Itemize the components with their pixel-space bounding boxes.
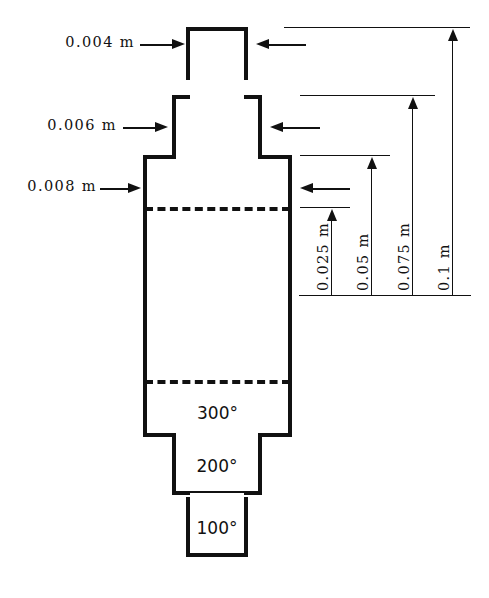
counter-arrow-main-icon — [300, 183, 313, 193]
extension-line-01 — [284, 27, 470, 28]
temperature-label-100: 100° — [186, 518, 248, 538]
dimension-arrow-01-icon — [448, 29, 458, 41]
dimension-label-0075: 0.075 m — [396, 222, 412, 291]
block-middle-step — [172, 95, 262, 155]
thickness-label-main: 0.008 m — [2, 178, 97, 194]
dimension-arrow-0075-icon — [408, 97, 418, 109]
joint-fill-lower-b — [190, 493, 244, 501]
dimension-arrow-0025-icon — [327, 209, 337, 221]
counter-arrow-middle-icon — [270, 122, 283, 132]
joint-fill-lower-a — [176, 433, 258, 441]
temperature-label-300: 300° — [143, 403, 292, 423]
dimension-label-0025: 0.025 m — [315, 222, 331, 291]
block-top-step — [186, 27, 248, 80]
leader-arrow-top-icon — [172, 39, 185, 49]
joint-fill-top — [190, 76, 244, 99]
counter-leader-line-main — [312, 188, 350, 190]
internal-dashed-divider-upper — [145, 207, 290, 211]
extension-line-0025 — [300, 207, 350, 208]
leader-arrow-middle-icon — [155, 122, 168, 132]
leader-arrow-main-icon — [128, 183, 141, 193]
dimension-line-005 — [371, 160, 372, 295]
dimension-line-01 — [452, 32, 453, 295]
counter-arrow-top-icon — [256, 39, 269, 49]
dimension-baseline — [299, 295, 471, 296]
dimension-label-01: 0.1 m — [436, 243, 452, 291]
dimension-line-0075 — [412, 100, 413, 295]
thickness-label-top: 0.004 m — [40, 34, 135, 50]
extension-line-005 — [300, 155, 390, 156]
block-main-body — [143, 155, 292, 437]
extension-line-0075 — [300, 95, 435, 96]
counter-leader-line-top — [268, 44, 306, 46]
joint-fill-middle — [176, 151, 258, 159]
dimension-label-005: 0.05 m — [355, 233, 371, 291]
internal-dashed-divider-lower — [145, 380, 290, 384]
diagram-canvas: 300° 200° 100° 0.004 m 0.006 m 0.008 m 0… — [0, 0, 489, 598]
dimension-arrow-005-icon — [367, 157, 377, 169]
dimension-line-0025 — [331, 212, 332, 295]
counter-leader-line-middle — [282, 127, 320, 129]
thickness-label-middle: 0.006 m — [22, 117, 117, 133]
temperature-label-200: 200° — [172, 456, 262, 476]
